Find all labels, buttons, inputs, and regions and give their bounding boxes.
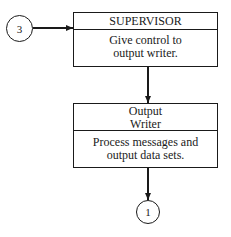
supervisor-description: Give control to output writer. <box>74 30 217 60</box>
connector-3-icon: 3 <box>6 15 33 42</box>
supervisor-title: SUPERVISOR <box>74 13 217 30</box>
output-writer-description: Process messages and output data sets. <box>74 131 217 162</box>
supervisor-box: SUPERVISOR Give control to output writer… <box>73 12 218 67</box>
output-writer-box: Output Writer Process messages and outpu… <box>73 103 218 168</box>
connector-1-label: 1 <box>145 206 151 218</box>
connector-1-icon: 1 <box>136 200 160 224</box>
connector-3-label: 3 <box>17 23 23 35</box>
output-writer-title: Output Writer <box>74 104 217 131</box>
